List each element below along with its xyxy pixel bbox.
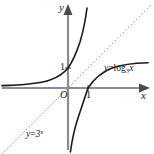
exp-label-exponent: x [40, 128, 43, 135]
graph-canvas [0, 0, 154, 154]
y-axis-label: y [59, 2, 64, 13]
x-axis-label: x [141, 90, 146, 101]
log-label-arg: x [129, 63, 133, 73]
math-figure: y x O 1 1 y=log3x y=3x [0, 0, 154, 154]
y-axis-arrowhead [64, 4, 73, 15]
x-axis-tick-label-1: 1 [86, 90, 91, 100]
mirror-line-y-equals-x [2, 4, 152, 154]
logarithm-curve-label: y=log3x [104, 64, 133, 75]
curve-logarithm [70, 63, 148, 152]
exponential-curve-label: y=3x [26, 129, 43, 139]
y-axis-tick-label-1: 1 [60, 62, 65, 72]
origin-label: O [60, 90, 67, 100]
curve-exponential [2, 8, 87, 86]
log-label-func: log [114, 63, 126, 73]
